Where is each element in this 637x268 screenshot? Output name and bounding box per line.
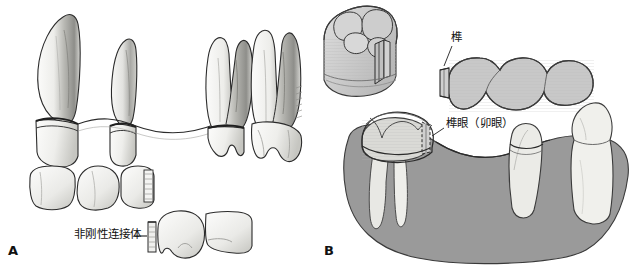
gingival-line-shadow: [78, 127, 216, 140]
panel-a-artwork: [0, 0, 320, 268]
crown-unit-5: [205, 211, 252, 253]
panel-letter-b: B: [324, 244, 334, 257]
label-mortise: 榫眼（卯眼）: [446, 118, 513, 130]
panel-letter-a: A: [8, 244, 19, 257]
occlusal-crowns-upper: [30, 166, 154, 210]
canine-abutment-intact: [571, 103, 613, 224]
panel-a: 非刚性连接体 A: [0, 0, 320, 268]
gingival-line: [78, 119, 216, 133]
panel-b-artwork: [318, 0, 637, 268]
bridge-prosthesis: [440, 58, 594, 112]
molar-crown-inset: [324, 6, 397, 96]
mortise-slot: [422, 122, 430, 154]
leader-line-mortise: [432, 128, 444, 136]
occlusal-crowns-lower: [148, 211, 252, 258]
non-rigid-connector-key: [148, 222, 156, 252]
keyway-slot-occlusal: [144, 170, 153, 202]
crown-unit-1: [30, 166, 75, 210]
tooth-first-molar-abutment: [206, 38, 253, 157]
crown-unit-4: [158, 211, 205, 258]
tooth-second-molar: [251, 30, 302, 161]
label-non-rigid-connector: 非刚性连接体: [74, 229, 142, 241]
label-tenon: 榫: [451, 32, 462, 44]
crown-unit-2: [77, 166, 119, 210]
tenon-key: [440, 68, 449, 98]
tooth-canine-abutment: [36, 15, 80, 168]
panel-b: 榫 榫眼（卯眼） B: [318, 0, 637, 268]
tooth-premolar-abutment: [110, 39, 137, 166]
dental-figure: 非刚性连接体 A: [0, 0, 637, 268]
